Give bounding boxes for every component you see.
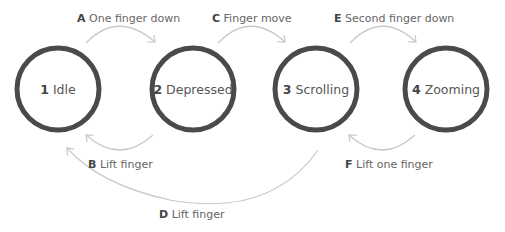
label-c: C Finger move [212,12,292,25]
arrow-e [350,26,416,43]
state-scrolling: 3 Scrolling [275,48,357,130]
arrow-c [218,26,285,43]
state-diagram: 1 Idle 2 Depressed 3 Scrolling 4 Zooming… [0,0,505,232]
state-depressed: 2 Depressed [152,48,234,130]
arrow-f [349,135,415,150]
state-zooming: 4 Zooming [405,48,487,130]
arrow-d [67,148,318,204]
state-idle: 1 Idle [17,48,99,130]
svg-text:1 Idle: 1 Idle [40,82,76,97]
label-b: B Lift finger [88,158,153,171]
label-a: A One finger down [77,12,180,25]
svg-text:4 Zooming: 4 Zooming [412,82,480,97]
label-f: F Lift one finger [345,158,433,171]
svg-text:2 Depressed: 2 Depressed [153,82,232,97]
arrow-b [86,135,153,150]
label-d: D Lift finger [159,208,225,221]
label-e: E Second finger down [334,12,454,25]
svg-text:3 Scrolling: 3 Scrolling [283,82,349,97]
arrow-a [86,26,155,43]
